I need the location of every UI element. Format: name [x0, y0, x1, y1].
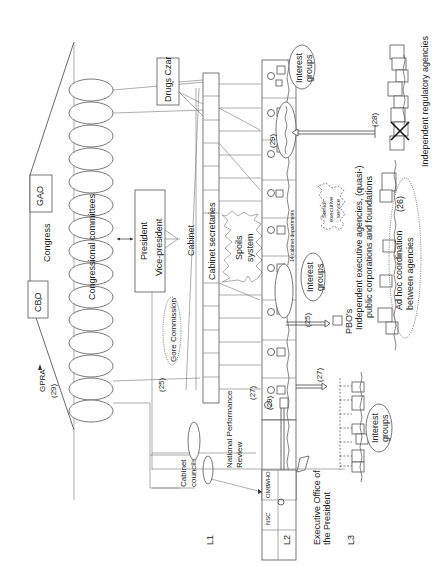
ref-29-top: (29) — [268, 133, 277, 148]
president-region: President Vice-president Gore Commission… — [117, 190, 181, 470]
cabinet-councils-line2: councils — [189, 458, 198, 487]
independent-regulatory-label: Independent regulatory agencies — [420, 35, 430, 167]
congressional-committees: Congressional committees — [69, 79, 113, 422]
interest-groups-label-line2: groups — [304, 54, 314, 82]
cabinet-secretaries-label: Cabinet secretaries — [207, 202, 217, 280]
spoils-system-line2: system — [245, 233, 255, 262]
senior-exec-line3: service — [335, 198, 341, 218]
gpra-label: GPRA — [38, 369, 47, 392]
level-l2: L2 — [282, 535, 292, 545]
level-l1: L1 — [205, 535, 215, 545]
congress-region: CBO GAO Congress GPRA (29) — [28, 42, 74, 500]
pbos-label: PBO's — [344, 308, 354, 334]
ref-27-a: (27) — [315, 367, 324, 382]
cabinet-label: Cabinet — [186, 224, 196, 256]
interest-groups-label-line1: Interest — [370, 412, 380, 443]
ref-28: (28) — [370, 112, 379, 127]
senior-exec-line1: Senior — [321, 201, 327, 218]
interest-groups-label-line2: groups — [380, 414, 390, 442]
independent-executive-agencies: Independent executive agencies, (quasi-)… — [354, 160, 421, 350]
adhoc-ref: (26) — [395, 196, 405, 212]
eop-unit-who: WHO — [265, 471, 271, 486]
ref-29-bottom: (29) — [265, 395, 274, 410]
president-label: President — [139, 221, 149, 260]
l3-agency-chain — [340, 372, 368, 482]
vice-president-label: Vice-president — [154, 218, 164, 276]
cabinet-councils-line1: Cabinet — [179, 459, 188, 487]
l1-region: L1 Cabinet councils National Performance… — [152, 390, 278, 545]
interest-groups-label-line2: groups — [315, 263, 325, 291]
us-federal-government-structure-diagram: CBO GAO Congress GPRA (29) Congressional… — [0, 0, 446, 569]
level-l3: L3 — [346, 535, 356, 545]
eop-parallelogram — [297, 456, 309, 472]
senior-executive-service: Senior executive service — [318, 183, 345, 230]
independent-exec-line2: public corporations and foundations — [364, 175, 374, 318]
cabinet-council-ellipse — [188, 422, 200, 460]
interest-groups-ellipse-wavy — [275, 264, 293, 318]
cbo-label: CBO — [33, 292, 43, 312]
ref-27-b: (27) — [248, 385, 257, 400]
congress-outline — [30, 42, 74, 430]
gao-label: GAO — [35, 186, 45, 206]
cabinet-region: Cabinet Cabinet secretaries Drugs Czar — [157, 56, 219, 403]
eop-region: NSC OMB WHO Executive Office of the Pres… — [211, 456, 332, 560]
spoils-system-line1: Spoils — [234, 235, 244, 260]
congress-label: Congress — [42, 223, 52, 262]
interest-groups-label-line1: Interest — [305, 261, 315, 292]
senior-exec-line2: executive — [328, 196, 334, 222]
gore-commission-ref: (25) — [157, 377, 166, 392]
adhoc-line1: Ad hoc coordination — [394, 230, 404, 310]
independent-regulatory-agencies: Independent regulatory agencies — [388, 35, 430, 167]
gore-commission-label: Gore Commission — [169, 298, 178, 362]
pbo-arrow-icon — [325, 320, 330, 327]
npr-line1: National Performance — [225, 390, 234, 468]
gpra-arrow-icon — [38, 364, 42, 370]
eop-line1: Executive Office of — [312, 470, 322, 545]
independent-exec-line1: Independent executive agencies, (quasi-) — [354, 165, 364, 330]
interest-groups-label-line1: Interest — [294, 52, 304, 83]
cabinet-council-ellipse — [203, 456, 213, 484]
spoils-system: Spoils system — [222, 211, 262, 282]
eop-unit-nsc: NSC — [265, 512, 271, 525]
gpra-ref: (29) — [49, 383, 58, 398]
npr-line2: Review — [235, 442, 244, 468]
eop-line2: the President — [322, 491, 332, 545]
adhoc-line2: between agencies — [405, 237, 415, 310]
pbo-box — [333, 316, 342, 325]
congressional-committees-label: Congressional committees — [87, 193, 97, 300]
drugs-czar-label: Drugs Czar — [163, 56, 173, 102]
cabinet-departments-label: 14 cabinet departments — [289, 209, 295, 262]
